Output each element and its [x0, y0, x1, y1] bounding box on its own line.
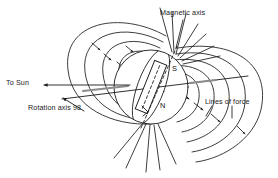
rotation-axis-label: Rotation axis 98 — [28, 103, 81, 112]
diagram-canvas: Magnetic axis To Sun Rotation axis 98 Li… — [0, 0, 278, 178]
radial-bot-3 — [154, 125, 160, 170]
gray-segment-right — [190, 80, 216, 83]
to-sun-label: To Sun — [6, 78, 29, 87]
lines-of-force-label: Lines of force — [205, 97, 250, 106]
magnet-pole-north-label: N — [160, 101, 165, 110]
magnetic-axis-leader-line — [176, 20, 183, 48]
magnetosphere-svg — [0, 0, 278, 178]
radial-top-7 — [183, 56, 220, 64]
magnetic-axis-label: Magnetic axis — [160, 8, 205, 17]
radial-top-2 — [172, 12, 174, 53]
magnet-pole-south-label: S — [172, 64, 177, 73]
field-lines-bottom-radial — [114, 123, 176, 172]
radial-top-3 — [176, 14, 186, 54]
radial-bot-2 — [146, 125, 150, 172]
radial-bot-5 — [158, 124, 176, 164]
radial-bot-1 — [126, 124, 146, 168]
